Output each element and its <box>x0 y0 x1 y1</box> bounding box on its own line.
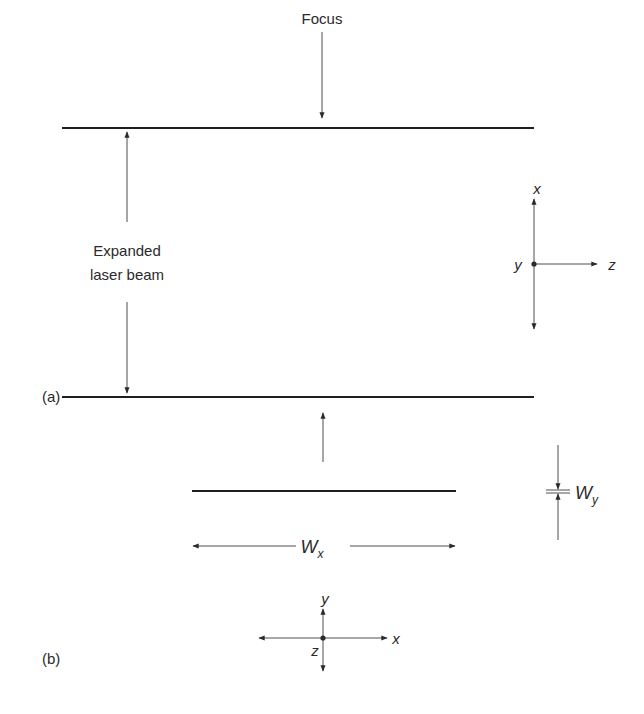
laser-beam-diagram: Focus Expanded laser beam (a) x y z Wx <box>0 0 644 714</box>
panel-b-label: (b) <box>42 650 60 667</box>
panel-b: Wx Wy y z x (b) <box>42 413 599 671</box>
origin-dot-icon <box>320 635 325 640</box>
beam-label-line2: laser beam <box>90 266 164 283</box>
axes-a: x y z <box>513 180 616 329</box>
wy-dimension: Wy <box>546 445 599 540</box>
axis-label-y: y <box>513 256 523 273</box>
origin-dot-icon <box>531 261 536 266</box>
axis-label-x: x <box>532 180 541 197</box>
axis-label-y: y <box>320 590 330 607</box>
axis-label-z: z <box>310 642 319 659</box>
axes-b: y z x <box>259 590 400 671</box>
panel-a: Focus Expanded laser beam (a) x y z <box>42 10 616 405</box>
axis-label-x: x <box>391 630 400 647</box>
panel-a-label: (a) <box>42 388 60 405</box>
wx-label: Wx <box>301 537 325 561</box>
beam-label-line1: Expanded <box>93 242 161 259</box>
focus-label: Focus <box>302 10 343 27</box>
wy-label: Wy <box>575 483 599 507</box>
axis-label-z: z <box>607 256 616 273</box>
